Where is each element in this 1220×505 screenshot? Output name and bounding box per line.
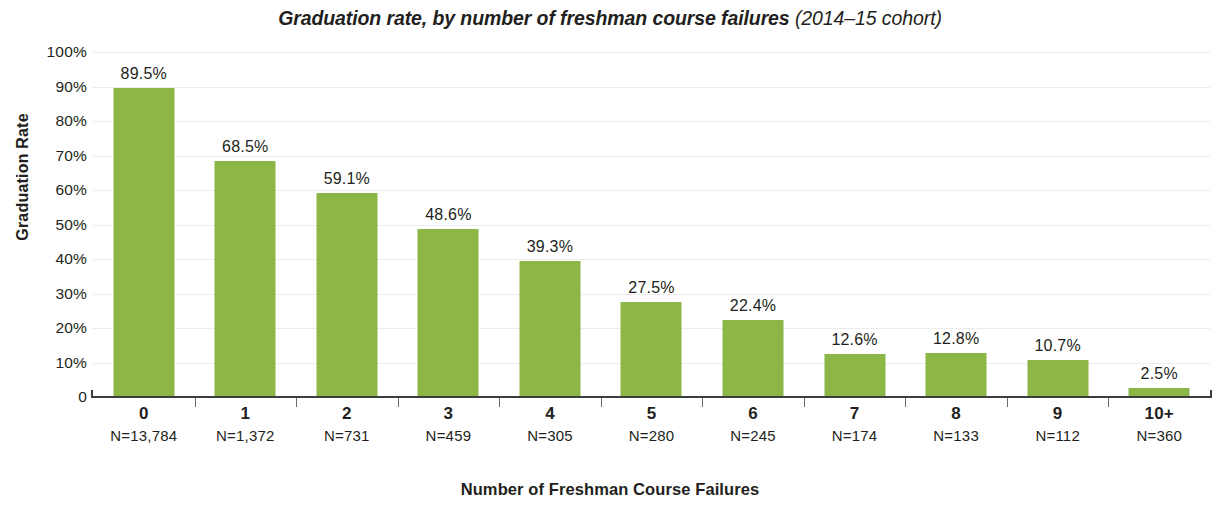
x-axis-title: Number of Freshman Course Failures	[0, 480, 1220, 499]
x-axis-tick	[1108, 398, 1109, 407]
y-axis-tick-label: 80%	[3, 112, 87, 130]
x-axis-category: 3N=459	[426, 404, 472, 444]
y-axis-tick-label: 0	[3, 388, 87, 406]
x-axis-right-cap	[1210, 390, 1212, 398]
x-axis-category-value: 3	[426, 404, 472, 424]
x-axis-category-n: N=305	[527, 427, 573, 444]
x-axis-category: 6N=245	[730, 404, 776, 444]
x-axis-category-value: 9	[1035, 404, 1080, 424]
bar-group: 48.6%	[398, 52, 500, 397]
x-axis-category-value: 10+	[1136, 404, 1182, 424]
bar-value-label: 68.5%	[222, 138, 268, 156]
x-axis-category-value: 1	[216, 404, 275, 424]
y-axis-tick-label: 40%	[3, 250, 87, 268]
x-axis-tick	[195, 398, 196, 407]
bar-value-label: 10.7%	[1034, 337, 1080, 355]
x-axis-category-n: N=112	[1035, 427, 1080, 444]
chart-container: Graduation rate, by number of freshman c…	[0, 0, 1220, 505]
x-axis-tick	[601, 398, 602, 407]
x-axis-line	[91, 396, 1212, 398]
bar-value-label: 39.3%	[527, 238, 573, 256]
bar-group: 10.7%	[1007, 52, 1109, 397]
x-axis-category: 5N=280	[629, 404, 675, 444]
x-axis-category-value: 2	[324, 404, 370, 424]
x-axis-category: 4N=305	[527, 404, 573, 444]
x-axis-category-n: N=731	[324, 427, 370, 444]
plot-area: 89.5%68.5%59.1%48.6%39.3%27.5%22.4%12.6%…	[93, 52, 1210, 397]
bar-group: 59.1%	[296, 52, 398, 397]
bar-value-label: 89.5%	[121, 65, 167, 83]
chart-title: Graduation rate, by number of freshman c…	[0, 6, 1220, 30]
x-axis-category: 9N=112	[1035, 404, 1080, 444]
x-axis-category-n: N=360	[1136, 427, 1182, 444]
chart-title-cohort: (2014–15 cohort)	[790, 7, 942, 29]
bar-value-label: 22.4%	[730, 297, 776, 315]
x-axis-tick	[905, 398, 906, 407]
bar[interactable]	[1027, 360, 1088, 397]
bar[interactable]	[316, 193, 377, 397]
bar-group: 89.5%	[93, 52, 195, 397]
x-axis-category-value: 8	[933, 404, 979, 424]
bar-group: 39.3%	[499, 52, 601, 397]
bar-group: 22.4%	[702, 52, 804, 397]
y-axis-tick-label: 60%	[3, 181, 87, 199]
x-axis-tick	[702, 398, 703, 407]
bar-value-label: 48.6%	[425, 206, 471, 224]
x-axis-category: 1N=1,372	[216, 404, 275, 444]
y-axis-tick-label: 50%	[3, 216, 87, 234]
x-axis-category-n: N=174	[832, 427, 878, 444]
bar[interactable]	[723, 320, 784, 397]
bar[interactable]	[113, 88, 174, 397]
bar[interactable]	[926, 353, 987, 397]
y-axis-tick-label: 10%	[3, 354, 87, 372]
x-axis-tick	[804, 398, 805, 407]
x-axis-category-value: 6	[730, 404, 776, 424]
bar-value-label: 12.8%	[933, 330, 979, 348]
x-axis-category-n: N=280	[629, 427, 675, 444]
bar-value-label: 27.5%	[628, 279, 674, 297]
bar-value-label: 59.1%	[324, 170, 370, 188]
x-axis-category: 0N=13,784	[110, 404, 177, 444]
y-axis-tick-label: 100%	[3, 43, 87, 61]
bar[interactable]	[824, 354, 885, 397]
x-axis-tick	[296, 398, 297, 407]
x-axis-category: 8N=133	[933, 404, 979, 444]
bar-value-label: 12.6%	[831, 331, 877, 349]
x-axis-category: 7N=174	[832, 404, 878, 444]
x-axis-tick	[398, 398, 399, 407]
x-axis-left-cap	[91, 390, 93, 398]
x-axis-category: 2N=731	[324, 404, 370, 444]
x-axis-category-n: N=13,784	[110, 427, 177, 444]
bar-group: 68.5%	[195, 52, 297, 397]
x-axis-category-n: N=1,372	[216, 427, 275, 444]
bar[interactable]	[215, 161, 276, 397]
bar-value-label: 2.5%	[1141, 365, 1178, 383]
bar[interactable]	[621, 302, 682, 397]
bar-group: 2.5%	[1108, 52, 1210, 397]
bar-group: 27.5%	[601, 52, 703, 397]
y-axis-tick-labels: 100%90%80%70%60%50%40%30%20%10%0	[0, 52, 87, 397]
y-axis-tick-label: 90%	[3, 78, 87, 96]
x-axis-category-value: 5	[629, 404, 675, 424]
chart-title-main: Graduation rate, by number of freshman c…	[278, 7, 789, 29]
bar[interactable]	[418, 229, 479, 397]
bar[interactable]	[519, 261, 580, 397]
x-axis-category-n: N=133	[933, 427, 979, 444]
x-axis-category-n: N=245	[730, 427, 776, 444]
y-axis-tick-label: 70%	[3, 147, 87, 165]
bar-group: 12.8%	[905, 52, 1007, 397]
x-axis-category-value: 0	[110, 404, 177, 424]
x-axis-tick	[499, 398, 500, 407]
x-axis-category-n: N=459	[426, 427, 472, 444]
x-axis-category-value: 4	[527, 404, 573, 424]
x-axis-category-value: 7	[832, 404, 878, 424]
y-axis-tick-label: 30%	[3, 285, 87, 303]
x-axis-category: 10+N=360	[1136, 404, 1182, 444]
y-axis-tick-label: 20%	[3, 319, 87, 337]
bar-group: 12.6%	[804, 52, 906, 397]
x-axis-tick	[1007, 398, 1008, 407]
